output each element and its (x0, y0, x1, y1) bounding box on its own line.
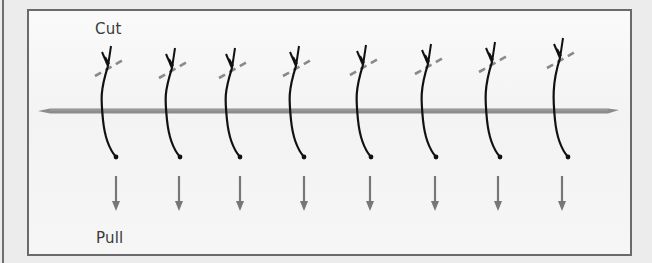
arrow-down-icon (494, 201, 502, 211)
sutures-group (95, 38, 575, 159)
pull-arrow-2 (175, 176, 183, 211)
arrow-down-icon (300, 201, 308, 211)
pull-arrow-6 (431, 176, 439, 211)
arrow-down-icon (431, 201, 439, 211)
wound-bar (38, 109, 619, 114)
pull-arrow-3 (236, 176, 244, 211)
suture-4 (283, 46, 311, 159)
suture-7 (479, 42, 507, 159)
pull-arrow-8 (558, 176, 566, 211)
suture-2 (159, 48, 187, 159)
suture-end-dot (302, 155, 307, 160)
suture-end-dot (114, 155, 119, 160)
suture-removal-diagram (0, 0, 652, 263)
suture-end-dot (434, 155, 439, 160)
pull-arrow-4 (300, 176, 308, 211)
pull-label: Pull (96, 229, 123, 247)
arrow-down-icon (236, 201, 244, 211)
suture-end-dot (238, 155, 243, 160)
pull-arrows-group (112, 176, 566, 211)
suture-8 (547, 38, 575, 159)
pull-arrow-1 (112, 176, 120, 211)
suture-5 (350, 45, 378, 159)
arrow-down-icon (175, 201, 183, 211)
wound-line (38, 109, 619, 114)
cut-label: Cut (95, 20, 121, 38)
suture-3 (219, 48, 247, 159)
suture-6 (415, 44, 443, 159)
arrow-down-icon (366, 201, 374, 211)
suture-end-dot (369, 155, 374, 160)
pull-arrow-5 (366, 176, 374, 211)
pull-arrow-7 (494, 176, 502, 211)
arrow-down-icon (112, 201, 120, 211)
suture-end-dot (178, 155, 183, 160)
suture-strand (554, 58, 568, 157)
arrow-down-icon (558, 201, 566, 211)
suture-1 (95, 46, 123, 159)
suture-end-dot (498, 155, 503, 160)
suture-end-dot (566, 155, 571, 160)
